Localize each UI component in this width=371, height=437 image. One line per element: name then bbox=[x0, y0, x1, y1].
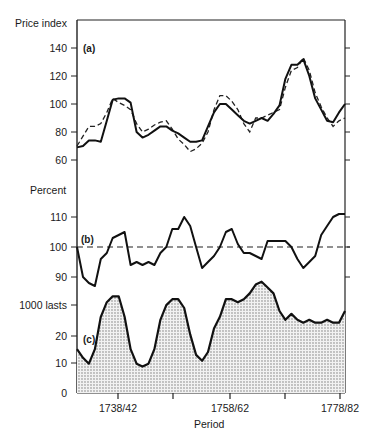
panel-a-ylabel: Price index bbox=[15, 17, 68, 29]
c-tick-20: 20 bbox=[55, 330, 67, 342]
x-axis-ticks bbox=[118, 393, 340, 399]
panel-a-dashed-series bbox=[77, 58, 345, 152]
panel-b-label: (b) bbox=[81, 234, 94, 245]
panel-b-solid-series bbox=[77, 214, 345, 286]
panel-b-ylabel: Percent bbox=[30, 184, 66, 196]
a-tick-120: 120 bbox=[49, 70, 67, 82]
x-tick-1738-42: 1738/42 bbox=[99, 402, 137, 414]
x-tick-1778-82: 1778/82 bbox=[321, 402, 359, 414]
panel-c-area bbox=[77, 282, 345, 393]
b-tick-90: 90 bbox=[55, 271, 67, 283]
panel-c-ylabel: 1000 lasts bbox=[19, 299, 67, 311]
x-tick-1758-62: 1758/62 bbox=[211, 402, 249, 414]
panel-a-label: (a) bbox=[83, 43, 95, 54]
b-tick-110: 110 bbox=[50, 211, 67, 223]
panel-a-solid-series bbox=[77, 59, 345, 147]
chart: Price index 140 120 100 80 60 (a) Percen… bbox=[0, 0, 371, 437]
b-tick-100: 100 bbox=[49, 241, 67, 253]
a-tick-100: 100 bbox=[49, 98, 67, 110]
y-axis-left bbox=[71, 48, 77, 363]
y-axis-right bbox=[345, 48, 350, 277]
c-tick-0: 0 bbox=[61, 387, 67, 399]
a-tick-140: 140 bbox=[49, 42, 67, 54]
panel-c-label: (c) bbox=[83, 334, 95, 345]
a-tick-60: 60 bbox=[55, 154, 67, 166]
x-axis-label: Period bbox=[194, 418, 225, 430]
c-tick-10: 10 bbox=[55, 357, 67, 369]
a-tick-80: 80 bbox=[55, 126, 67, 138]
